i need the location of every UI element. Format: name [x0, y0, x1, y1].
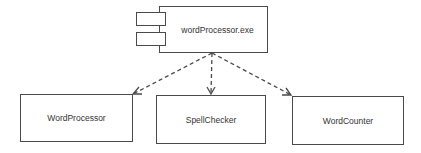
component-spellchecker[interactable]: SpellChecker: [156, 95, 266, 144]
arrow-to-wordcounter: [212, 53, 291, 95]
arrowhead-wordcounter: [282, 88, 291, 95]
component-wordcounter[interactable]: WordCounter: [292, 96, 404, 145]
component-label: WordProcessor: [47, 113, 105, 123]
artifact-label: wordProcessor.exe: [181, 25, 253, 35]
arrow-to-wordprocessor: [133, 53, 212, 94]
component-tab-icon: [136, 32, 166, 46]
component-label: WordCounter: [323, 116, 373, 126]
component-wordprocessor[interactable]: WordProcessor: [20, 94, 133, 142]
arrow-to-spellchecker: [211, 53, 212, 94]
component-label: SpellChecker: [186, 115, 237, 125]
component-tab-icon: [136, 12, 166, 26]
diagram-canvas: wordProcessor.exe WordProcessor SpellChe…: [0, 0, 421, 153]
artifact-wordprocessor-exe[interactable]: wordProcessor.exe: [159, 6, 268, 53]
